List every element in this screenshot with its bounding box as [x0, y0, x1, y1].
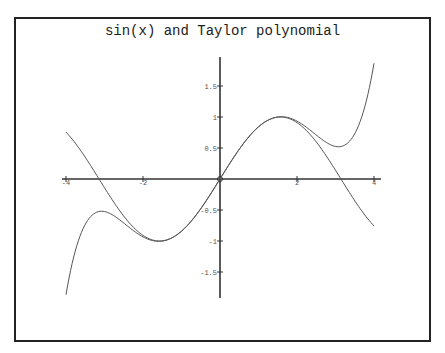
y-tick-label: -0.5 [200, 207, 217, 215]
y-tick-label: 1.5 [204, 83, 217, 91]
y-tick-label: 1 [213, 114, 217, 122]
y-tick-label: -1.5 [200, 269, 217, 277]
y-tick-label: 0.5 [204, 145, 217, 153]
y-tick-label: -1 [209, 238, 217, 246]
x-tick-label: 2 [295, 179, 299, 187]
x-tick-label: -4 [62, 179, 70, 187]
x-tick-label: -2 [139, 179, 147, 187]
x-tick-label: 4 [372, 179, 376, 187]
plot-area: -4-224-1.5-1-0.50.511.5 [0, 0, 445, 353]
